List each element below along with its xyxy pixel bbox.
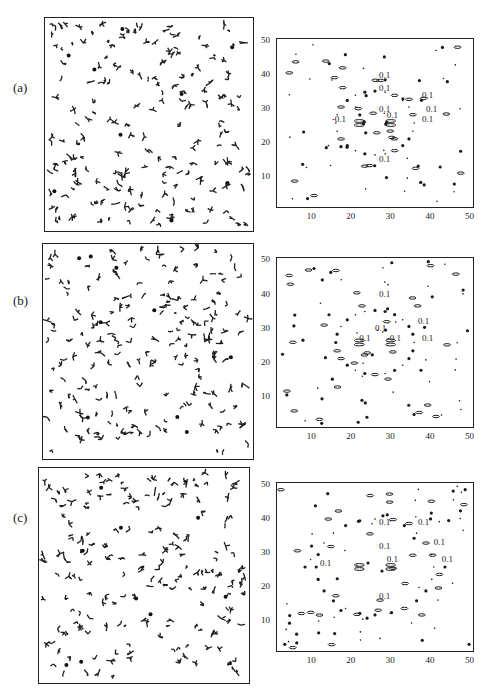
y-tick-label: 30 [261,323,270,333]
y-tick-label: 30 [261,547,270,557]
y-tick-label: 10 [261,171,270,181]
contour-level-label: 0.1 [422,333,433,343]
x-tick-label: 30 [386,211,395,221]
y-tick-label: 10 [261,391,270,401]
x-tick-label: 30 [386,431,395,441]
contour-level-label: 0.1 [426,104,437,114]
scatter-plot-markers [45,18,253,231]
panel-label-b: (b) [13,293,28,309]
x-tick-label: 50 [465,431,474,441]
contour-markers [277,39,473,207]
contour-level-label: 0.1 [387,554,398,564]
contour-level-label: 0.1 [379,83,390,93]
particle-configuration-b [42,243,254,460]
contour-markers [277,258,473,427]
y-tick-label: 30 [261,103,270,113]
particle-configuration-c [38,467,250,684]
contour-level-label: 0.1 [387,110,398,120]
x-tick-label: 10 [307,431,316,441]
contour-level-label: 0.1 [418,316,429,326]
contour-level-label: -0.1 [332,114,346,124]
x-tick-label: 50 [465,211,474,221]
x-tick-label: 40 [425,431,434,441]
structure-factor-contour-c: 0.10.10.10.10.10.10.10.1 [276,482,474,652]
y-tick-label: 20 [261,581,270,591]
contour-level-label: 0.1 [422,90,433,100]
contour-level-label: 0.1 [422,114,433,124]
y-tick-label: 40 [261,513,270,523]
x-tick-label: 40 [425,211,434,221]
y-tick-label: 50 [261,254,270,264]
y-tick-label: 10 [261,615,270,625]
contour-level-label: 0.1 [418,517,429,527]
y-tick-label: 20 [261,357,270,367]
structure-factor-contour-b: 0.10.10.1-0.10.10.1 [276,257,474,428]
panel-label-a: (a) [13,80,27,96]
contour-level-label: 0.1 [359,333,370,343]
y-tick-label: 20 [261,137,270,147]
x-tick-label: 10 [307,211,316,221]
contour-level-label: 0.1 [379,591,390,601]
scatter-plot-markers [43,244,253,459]
contour-level-label: 0.1 [379,70,390,80]
contour-level-label: 0.1 [320,558,331,568]
contour-level-label: 0.1 [434,537,445,547]
particle-configuration-a [44,17,254,232]
contour-level-label: 0.1 [379,517,390,527]
contour-level-label: 0.1 [379,154,390,164]
x-tick-label: 20 [346,431,355,441]
y-tick-label: 50 [261,479,270,489]
x-tick-label: 30 [386,655,395,665]
contour-markers [277,483,473,651]
x-tick-label: 20 [346,211,355,221]
contour-level-label: -0.1 [387,333,401,343]
x-tick-label: 40 [425,655,434,665]
y-tick-label: 40 [261,289,270,299]
y-tick-label: 40 [261,69,270,79]
contour-level-label: 0.1 [379,541,390,551]
contour-level-label: 0.1 [379,289,390,299]
x-tick-label: 50 [465,655,474,665]
panel-label-c: (c) [13,510,27,526]
x-tick-label: 10 [307,655,316,665]
y-tick-label: 50 [261,35,270,45]
contour-level-label: 0.1 [442,554,453,564]
contour-level-label: 0.1 [375,323,386,333]
scatter-plot-markers [39,468,249,683]
x-tick-label: 20 [346,655,355,665]
structure-factor-contour-a: 0.10.10.10.1-0.10.10.10.10.1 [276,38,474,208]
